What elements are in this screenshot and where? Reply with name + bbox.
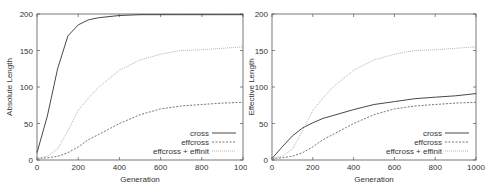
- legend-label: effcross + effinit: [386, 147, 443, 156]
- y-tick-label: 200: [255, 10, 269, 19]
- x-axis-label: Generation: [354, 175, 394, 184]
- y-tick-label: 0: [264, 156, 269, 165]
- x-tick-label: 600: [154, 163, 168, 172]
- x-tick-label: 800: [429, 163, 443, 172]
- x-axis-label: Generation: [120, 175, 160, 184]
- x-tick-label: 1000: [234, 163, 247, 172]
- x-tick-label: 800: [195, 163, 209, 172]
- series-line-cross: [272, 94, 476, 159]
- y-tick-label: 100: [20, 83, 34, 92]
- x-tick-label: 1000: [467, 163, 485, 172]
- legend-label: effcross: [414, 138, 442, 147]
- x-tick-label: 0: [35, 163, 40, 172]
- series-line-cross: [37, 15, 243, 153]
- y-tick-label: 100: [255, 83, 269, 92]
- y-axis-label: Absolute Length: [5, 58, 14, 116]
- x-tick-label: 200: [72, 163, 86, 172]
- legend-label: effcross: [181, 138, 209, 147]
- chart-absolute-length: 02004006008001000050100150200GenerationA…: [0, 0, 247, 188]
- x-tick-label: 400: [347, 163, 361, 172]
- y-tick-label: 0: [29, 156, 34, 165]
- legend-label: effcross + effinit: [153, 147, 210, 156]
- plot-absolute-length: 02004006008001000050100150200GenerationA…: [0, 0, 247, 188]
- y-axis-label: Effective Length: [247, 58, 256, 115]
- chart-effective-length: 02004006008001000050100150200GenerationE…: [247, 0, 494, 188]
- y-tick-label: 150: [255, 47, 269, 56]
- y-tick-label: 50: [259, 120, 268, 129]
- legend-label: cross: [190, 129, 209, 138]
- x-tick-label: 0: [270, 163, 275, 172]
- legend-label: cross: [423, 129, 442, 138]
- y-tick-label: 150: [20, 47, 34, 56]
- plot-effective-length: 02004006008001000050100150200GenerationE…: [247, 0, 494, 188]
- x-tick-label: 200: [306, 163, 320, 172]
- y-tick-label: 50: [24, 120, 33, 129]
- x-tick-label: 400: [113, 163, 127, 172]
- x-tick-label: 600: [388, 163, 402, 172]
- plot-frame: [272, 14, 476, 160]
- y-tick-label: 200: [20, 10, 34, 19]
